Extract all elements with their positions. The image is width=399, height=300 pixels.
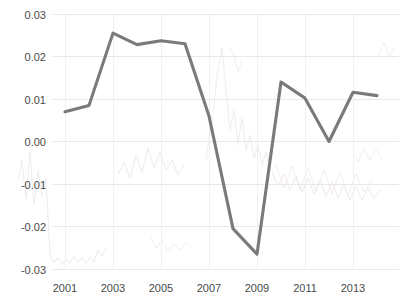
y-tick-label: 0.03 — [25, 9, 46, 21]
y-tick-label: 0.02 — [25, 51, 46, 63]
x-tick-label: 2013 — [341, 282, 365, 294]
y-tick-label: 0.01 — [25, 94, 46, 106]
chart-container: 0.03 0.02 0.01 0.00 -0.01 -0.02 -0.03 20… — [0, 0, 399, 300]
x-tick-label: 2005 — [149, 282, 173, 294]
x-tick-label: 2011 — [293, 282, 317, 294]
y-tick-label: -0.01 — [21, 179, 46, 191]
y-tick-label: 0.00 — [25, 136, 46, 148]
chart-background — [0, 0, 399, 300]
line-chart: 0.03 0.02 0.01 0.00 -0.01 -0.02 -0.03 20… — [0, 0, 399, 300]
x-tick-label: 2003 — [101, 282, 125, 294]
y-tick-label: -0.03 — [21, 264, 46, 276]
y-tick-label: -0.02 — [21, 221, 46, 233]
x-tick-label: 2001 — [53, 282, 77, 294]
x-tick-label: 2007 — [197, 282, 221, 294]
x-tick-label: 2009 — [245, 282, 269, 294]
